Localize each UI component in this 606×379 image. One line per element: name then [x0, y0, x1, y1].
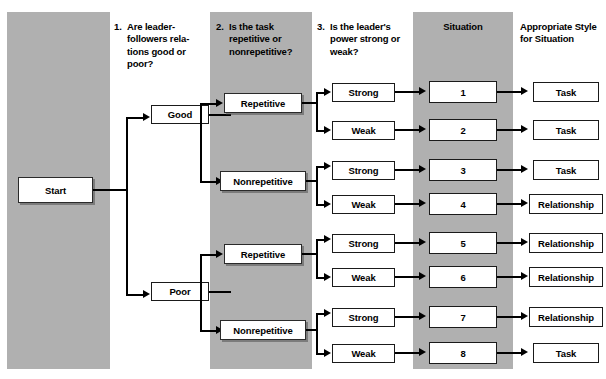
node-power-7[interactable]: Strong [332, 308, 395, 327]
connector-situation5-to-style5 [497, 242, 523, 244]
column-heading-text-3: Is the leader's power strong or weak? [330, 21, 411, 58]
connector-power6-to-situation6 [395, 276, 421, 278]
column-heading-text-1: Are leader-followers rela- tions good or… [127, 21, 206, 71]
node-power-2[interactable]: Weak [332, 121, 395, 140]
connector-situation2-to-style2 [497, 129, 523, 131]
arrowhead-task1-to-weak [324, 126, 331, 134]
arrowhead-task4-to-weak [324, 349, 331, 357]
column-heading-style: Appropriate Style for Situation [520, 21, 606, 46]
arrowhead-situation-6 [419, 272, 426, 280]
node-situation-5[interactable]: 5 [429, 232, 497, 254]
connector-task4-split [316, 313, 318, 355]
arrowhead-style-3 [521, 165, 528, 173]
arrowhead-style-2 [521, 125, 528, 133]
connector-task1-split [316, 92, 318, 132]
node-situation-8[interactable]: 8 [429, 342, 497, 364]
node-power-6[interactable]: Weak [332, 268, 395, 287]
arrowhead-task3-to-weak [324, 273, 331, 281]
connector-power5-to-situation5 [395, 242, 421, 244]
connector-power1-to-situation1 [395, 91, 421, 93]
arrowhead-style-5 [521, 238, 528, 246]
node-power-1[interactable]: Strong [332, 83, 395, 102]
connector-start-split [126, 117, 128, 296]
connector-situation3-to-style3 [497, 169, 523, 171]
node-style-4[interactable]: Relationship [529, 194, 603, 214]
node-situation-1[interactable]: 1 [429, 81, 497, 103]
node-task-nonrepetitive-1[interactable]: Nonrepetitive [220, 171, 306, 191]
arrowhead-task1-to-strong [324, 88, 331, 96]
arrowhead-style-1 [521, 87, 528, 95]
node-situation-4[interactable]: 4 [429, 193, 497, 215]
connector-situation8-to-style8 [497, 352, 523, 354]
node-power-5[interactable]: Strong [332, 234, 395, 253]
node-task-nonrepetitive-2[interactable]: Nonrepetitive [220, 320, 306, 340]
arrowhead-situation-8 [419, 348, 426, 356]
connector-good-to-repetitive [200, 103, 217, 105]
arrowhead-style-6 [521, 272, 528, 280]
connector-power4-to-situation4 [395, 203, 421, 205]
arrowhead-good-to-repetitive [216, 99, 223, 107]
node-style-7[interactable]: Relationship [529, 307, 603, 327]
column-number-3: 3. [317, 21, 325, 33]
node-power-8[interactable]: Weak [332, 344, 395, 363]
node-power-4[interactable]: Weak [332, 195, 395, 214]
arrowhead-situation-3 [419, 165, 426, 173]
connector-power8-to-situation8 [395, 352, 421, 354]
connector-power3-to-situation3 [395, 169, 421, 171]
node-style-3[interactable]: Task [533, 160, 599, 180]
column-heading-relations: 1. Are leader-followers rela- tions good… [114, 21, 206, 71]
node-style-8[interactable]: Task [533, 343, 599, 363]
connector-start-to-poor [126, 294, 144, 296]
connector-power7-to-situation7 [395, 316, 421, 318]
node-style-2[interactable]: Task [533, 120, 599, 140]
node-situation-3[interactable]: 3 [429, 159, 497, 181]
arrowhead-poor-to-repetitive [216, 250, 223, 258]
arrowhead-style-4 [521, 199, 528, 207]
connector-start-to-good [126, 117, 144, 119]
node-task-repetitive-1[interactable]: Repetitive [224, 93, 302, 113]
connector-situation4-to-style4 [497, 203, 523, 205]
node-power-3[interactable]: Strong [332, 161, 395, 180]
connector-good-stem [209, 114, 231, 116]
arrowhead-start-to-poor [143, 290, 150, 298]
node-style-1[interactable]: Task [533, 82, 599, 102]
connector-poor-stem [209, 291, 231, 293]
connector-situation7-to-style7 [497, 316, 523, 318]
node-situation-2[interactable]: 2 [429, 119, 497, 141]
node-situation-6[interactable]: 6 [429, 266, 497, 288]
column-heading-power: 3. Is the leader's power strong or weak? [317, 21, 411, 58]
arrowhead-situation-5 [419, 238, 426, 246]
arrowhead-task4-to-strong [324, 309, 331, 317]
connector-start-stem [93, 189, 128, 191]
arrowhead-task2-to-strong [324, 162, 331, 170]
connector-power2-to-situation2 [395, 129, 421, 131]
arrowhead-situation-4 [419, 199, 426, 207]
node-style-5[interactable]: Relationship [529, 233, 603, 253]
column-heading-situation: Situation [413, 21, 513, 33]
arrowhead-situation-2 [419, 125, 426, 133]
connector-good-split [200, 103, 202, 183]
node-start[interactable]: Start [18, 177, 93, 203]
node-task-repetitive-2[interactable]: Repetitive [224, 244, 302, 264]
connector-poor-to-nonrepetitive [200, 330, 217, 332]
node-style-6[interactable]: Relationship [529, 267, 603, 287]
node-situation-7[interactable]: 7 [429, 306, 497, 328]
arrowhead-start-to-good [143, 113, 150, 121]
column-number-1: 1. [114, 21, 122, 33]
column-heading-task: 2. Is the task repetitive or nonrepetiti… [216, 21, 310, 58]
arrowhead-situation-7 [419, 312, 426, 320]
arrowhead-style-7 [521, 312, 528, 320]
arrowhead-style-8 [521, 348, 528, 356]
arrowhead-task2-to-weak [324, 200, 331, 208]
column-heading-text-2: Is the task repetitive or nonrepetitive? [229, 21, 310, 58]
connector-good-to-nonrepetitive [200, 181, 217, 183]
connector-task2-split [316, 166, 318, 206]
connector-situation1-to-style1 [497, 91, 523, 93]
connector-situation6-to-style6 [497, 276, 523, 278]
connector-task3-split [316, 239, 318, 279]
connector-poor-split [200, 254, 202, 332]
arrowhead-situation-1 [419, 87, 426, 95]
arrowhead-task3-to-strong [324, 235, 331, 243]
connector-poor-to-repetitive [200, 254, 217, 256]
column-number-2: 2. [216, 21, 224, 33]
